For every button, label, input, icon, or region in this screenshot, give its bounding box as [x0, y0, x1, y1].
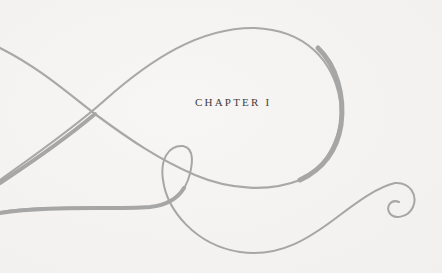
flourish-main-loop: [0, 28, 341, 188]
decorative-flourish-icon: [0, 0, 442, 273]
flourish-lower-swash-thick: [0, 188, 184, 213]
chapter-heading: CHAPTER I: [195, 96, 271, 108]
flourish-arc-thick: [300, 48, 342, 180]
flourish-lower-swash: [0, 146, 414, 253]
flourish-left-arm-thick: [0, 114, 95, 183]
book-page: CHAPTER I: [0, 0, 442, 273]
